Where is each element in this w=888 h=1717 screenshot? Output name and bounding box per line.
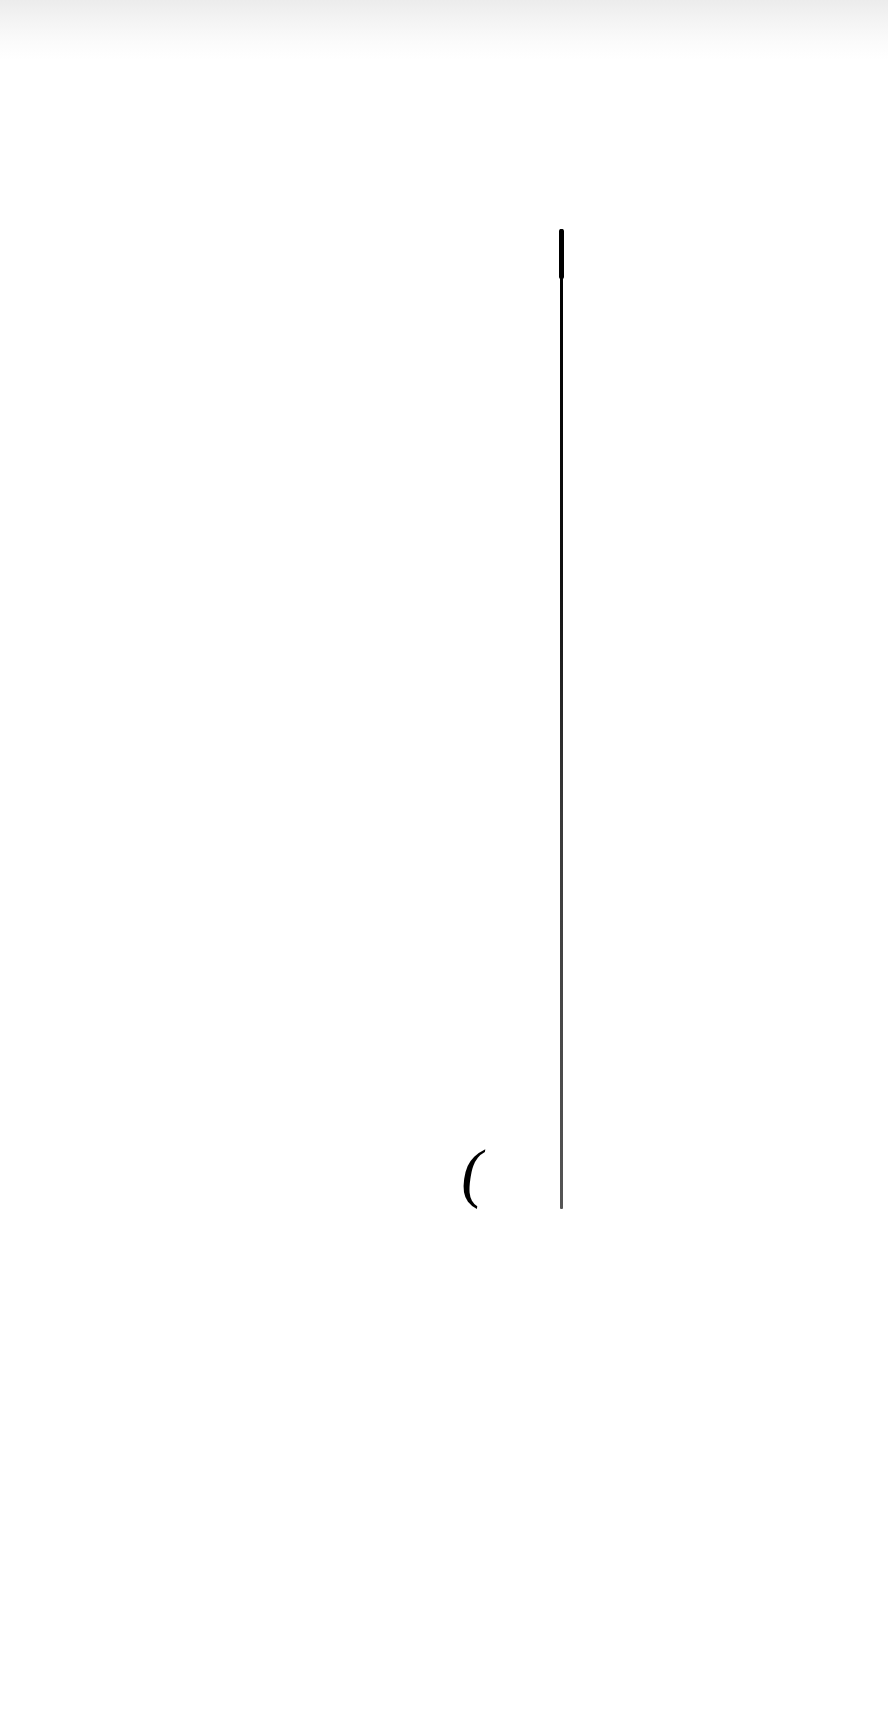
handwritten-paren-mark: ( bbox=[457, 1140, 488, 1206]
page-gutter-line bbox=[560, 229, 563, 1209]
scan-noise-band bbox=[0, 0, 888, 60]
bleed-through-text bbox=[268, 522, 808, 538]
page-gutter-line-top bbox=[559, 229, 564, 279]
